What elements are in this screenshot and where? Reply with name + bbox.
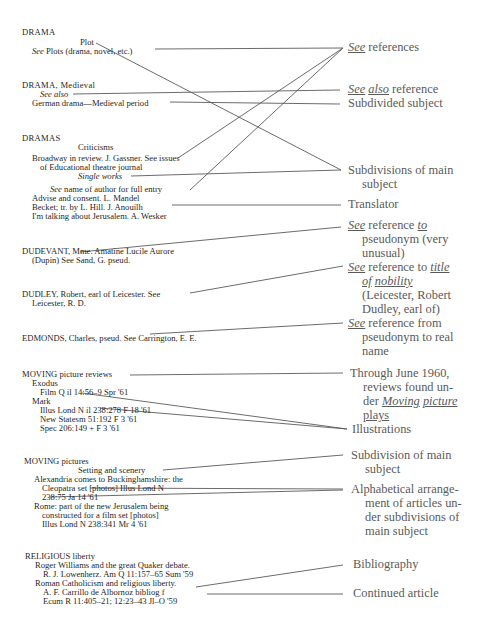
- leader-bibliography: [196, 565, 343, 587]
- label-see-to-pseudonym: See reference to pseudonym (very unusual…: [348, 218, 448, 260]
- article-b-3: Illus Lond N 238:341 Mr 4 '61: [42, 520, 148, 529]
- dudevant-line2: (Dupin) See Sand, G. pseud.: [32, 256, 130, 265]
- subhead-single-works: Single works: [78, 172, 122, 181]
- leader-single-works: [131, 170, 341, 176]
- label-see-references: See references: [348, 40, 419, 54]
- dudley-line2: Leicester, R. D.: [32, 299, 86, 308]
- leader-nobility: [190, 266, 343, 293]
- label-through-june: Through June 1960, reviews found un- der…: [350, 366, 458, 422]
- label-continued-article: Continued article: [353, 586, 439, 600]
- label-subdivisions-main: Subdivisions of main subject: [348, 163, 453, 191]
- label-see-title-nobility: See reference to title of nobility (Leic…: [348, 260, 451, 316]
- heading-drama: DRAMA: [22, 28, 56, 37]
- heading-dramas: DRAMAS: [22, 134, 61, 143]
- see-plots: See Plots (drama, novel, etc.): [32, 47, 132, 56]
- edmonds-line1: EDMONDS, Charles, pseud. See Carrington,…: [22, 334, 197, 343]
- label-bibliography: Bibliography: [353, 557, 418, 571]
- review-cite-4: Spec 206:149 + F 3 '61: [40, 424, 120, 433]
- label-subdivision-main: Subdivision of main subject: [351, 448, 452, 476]
- label-subdivided-subject: Subdivided subject: [348, 96, 443, 110]
- label-see-from-pseudonym: See reference from pseudonym to real nam…: [348, 316, 454, 358]
- leader-through-june: [130, 373, 343, 375]
- leader-see-also: [73, 90, 340, 94]
- review-cite-1: Film Q il 14:56–9 Spr '61: [40, 388, 128, 397]
- leader-see-issues: [178, 48, 343, 158]
- leader-subdivided: [170, 102, 340, 104]
- label-see-also-reference: See also reference: [348, 82, 438, 96]
- label-illustrations: Illustrations: [352, 422, 411, 436]
- leader-setting-scenery: [163, 455, 343, 470]
- see-also-ref: German drama—Medieval period: [32, 99, 148, 108]
- label-translator: Translator: [348, 197, 398, 211]
- subhead-criticisms: Criticisms: [78, 143, 113, 152]
- dramas-item3: I'm talking about Jerusalem. A. Wesker: [32, 212, 167, 221]
- religious-b-3: Ecum R 11:405–21; 12:23–43 Jl–O '59: [43, 597, 177, 606]
- leader-see-plots: [155, 48, 343, 49]
- label-alphabetical: Alphabetical arrange- ment of articles u…: [351, 482, 462, 538]
- leader-see-author: [190, 48, 343, 190]
